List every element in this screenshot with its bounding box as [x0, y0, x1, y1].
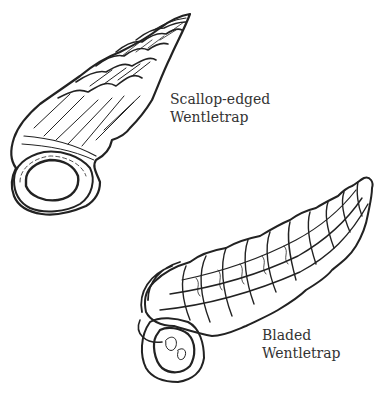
bladed-wentletrap-label: Bladed Wentletrap	[262, 326, 341, 362]
label-line-1: Bladed	[262, 326, 341, 344]
label-line-2: Wentletrap	[262, 344, 341, 362]
scallop-edged-wentletrap-drawing	[11, 14, 190, 215]
scallop-edged-wentletrap-label: Scallop-edged Wentletrap	[170, 90, 270, 126]
label-line-2: Wentletrap	[170, 108, 270, 126]
label-line-1: Scallop-edged	[170, 90, 270, 108]
shell-illustration-page: Scallop-edged Wentletrap Bladed Wentletr…	[0, 0, 384, 412]
